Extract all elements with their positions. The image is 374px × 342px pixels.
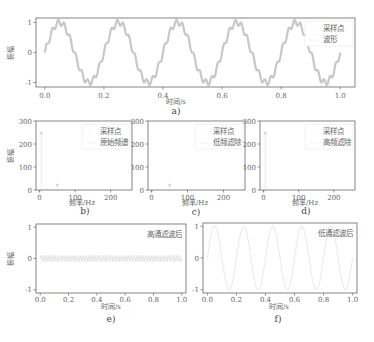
panel-caption-e: e): [107, 314, 116, 324]
x-tick-label: 0: [261, 194, 265, 202]
legend-entry: 采样点: [323, 126, 345, 136]
chart-panel-a: 0.00.20.40.60.81.0-101时间/s振幅·采样点波形a): [6, 18, 355, 116]
y-tick-label: -1: [25, 79, 32, 87]
figure: 0.00.20.40.60.81.0-101时间/s振幅·采样点波形a)××+0…: [0, 0, 374, 342]
x-tick-label: 200: [327, 194, 340, 202]
svg-text:·: ·: [312, 25, 314, 32]
x-tick-label: 0.8: [148, 296, 159, 304]
y-tick-label: 100: [19, 164, 32, 172]
x-tick-label: 1.0: [335, 92, 346, 100]
y-axis-label: 振幅: [6, 149, 15, 163]
y-tick-label: 300: [19, 118, 32, 126]
y-tick-label: 0: [252, 187, 256, 195]
legend-entry: 波形: [323, 34, 338, 44]
chart-panel-c: ×+01002000100200300频率/Hz·采样点低频滤除c): [131, 118, 245, 218]
x-axis-label: 时间/s: [166, 97, 186, 106]
legend-entry: 原始频谱: [100, 137, 129, 147]
legend: 低通滤波后: [318, 228, 354, 238]
x-tick-label: 200: [104, 194, 117, 202]
y-tick-label: 0: [140, 187, 144, 195]
y-tick-label: 0: [28, 49, 32, 57]
x-tick-label: 0.8: [318, 296, 329, 304]
x-tick-label: 200: [217, 194, 230, 202]
x-tick-label: 0.2: [231, 296, 242, 304]
panel-caption-c: c): [192, 207, 201, 217]
chart-panel-d: ×+01002000100200300频率/Hz·采样点高频滤除d): [243, 118, 355, 217]
y-tick-label: 300: [131, 118, 144, 126]
legend: ·采样点高频滤除: [305, 124, 353, 149]
x-axis-label: 时间/s: [269, 302, 289, 311]
legend-entry: 采样点: [323, 23, 345, 33]
x-tick-label: 0.6: [120, 296, 132, 304]
y-tick-label: 200: [131, 141, 144, 149]
chart-panel-f: 0.00.20.40.60.81.0-101时间/s低通滤波后f): [192, 223, 358, 324]
panel-caption-f: f): [275, 314, 282, 324]
x-tick-label: 0.0: [39, 92, 50, 100]
panel-caption-d: d): [301, 206, 310, 216]
x-tick-label: 0.2: [63, 296, 74, 304]
legend-entry: 高通滤波后: [147, 229, 183, 239]
chart-panel-b: ××+01002000100200300频率/Hz振幅·采样点原始频谱b): [6, 118, 132, 217]
data-line: [40, 256, 182, 262]
y-tick-label: 0: [28, 255, 32, 263]
x-tick-label: 0.6: [217, 92, 229, 100]
x-tick-label: 0.0: [202, 296, 213, 304]
sample-marker: ×: [55, 181, 60, 188]
x-tick-label: 1.0: [347, 296, 358, 304]
x-axis-label: 时间/s: [101, 302, 121, 311]
y-tick-label: 0: [28, 187, 32, 195]
sample-marker: ×: [39, 129, 44, 136]
legend: ·采样点低频滤除: [195, 124, 243, 149]
y-axis-label: 振幅: [6, 252, 15, 266]
x-tick-label: 0.8: [276, 92, 287, 100]
legend: ·采样点原始频谱: [82, 124, 130, 149]
panel-caption-a: a): [172, 106, 181, 116]
legend: ·采样点波形: [305, 21, 353, 46]
svg-text:·: ·: [312, 128, 314, 135]
panel-caption-b: b): [80, 206, 89, 216]
y-tick-label: -1: [192, 286, 199, 294]
legend-entry: 低通滤波后: [318, 228, 354, 238]
sample-marker: ×: [167, 181, 172, 188]
y-tick-label: 300: [243, 118, 256, 126]
x-tick-label: 0: [37, 194, 41, 202]
y-tick-label: -1: [25, 286, 32, 294]
data-line: [45, 20, 340, 85]
legend-entry: 高频滤除: [323, 137, 352, 147]
x-tick-label: 0.2: [98, 92, 109, 100]
svg-text:·: ·: [89, 128, 91, 135]
x-tick-label: 0.6: [289, 296, 301, 304]
y-tick-label: 1: [28, 224, 32, 232]
x-tick-label: 0: [149, 194, 153, 202]
y-tick-label: 100: [243, 164, 256, 172]
legend-entry: 低频滤除: [213, 137, 242, 147]
y-tick-label: 1: [195, 223, 199, 231]
y-axis-label: 振幅: [6, 46, 15, 60]
y-tick-label: 100: [131, 164, 144, 172]
x-tick-label: 0.0: [35, 296, 46, 304]
svg-text:·: ·: [202, 128, 204, 135]
x-axis-label: 频率/Hz: [182, 198, 208, 207]
y-tick-label: 200: [243, 141, 256, 149]
legend: 高通滤波后: [147, 229, 183, 239]
x-tick-label: 1.0: [176, 296, 187, 304]
y-tick-label: 0: [195, 255, 199, 263]
legend-entry: 采样点: [100, 126, 122, 136]
y-tick-label: 200: [19, 141, 32, 149]
sample-marker: ×: [263, 129, 268, 136]
y-tick-label: 1: [28, 19, 32, 27]
chart-panel-e: 0.00.20.40.60.81.0-101时间/s振幅高通滤波后e): [6, 224, 187, 324]
legend-entry: 采样点: [213, 126, 235, 136]
